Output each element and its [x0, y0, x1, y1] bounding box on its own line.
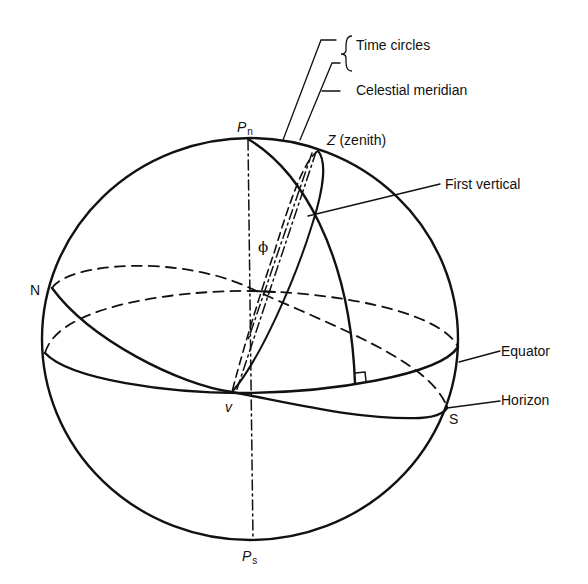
time-circles-brace — [341, 36, 352, 71]
equator-tick — [252, 291, 275, 292]
north-point-label: N — [30, 283, 40, 297]
horizon-label: Horizon — [501, 393, 549, 407]
first-vertical-front — [232, 151, 323, 392]
equator-label: Equator — [501, 344, 550, 358]
north-pole-label: Pn — [237, 120, 253, 137]
celestial-meridian-label: Celestial meridian — [356, 83, 467, 97]
north-pole-subscript: n — [247, 126, 253, 137]
time-circles-label: Time circles — [356, 38, 430, 52]
south-pole-letter: P — [242, 548, 251, 564]
vernal-point-label: v — [225, 400, 232, 414]
time-circles-leader-2 — [300, 63, 340, 140]
first-vertical-back — [232, 151, 318, 392]
latitude-phi-label: ϕ — [258, 240, 268, 255]
zenith-text: (zenith) — [339, 132, 386, 148]
right-angle-marker — [355, 372, 366, 381]
first-vertical-leader — [308, 184, 440, 216]
south-pole-subscript: s — [252, 555, 257, 566]
sphere-outline — [42, 138, 458, 540]
equator-leader — [459, 351, 500, 362]
zenith-letter: Z — [327, 132, 336, 148]
time-circles-leader-1 — [283, 40, 336, 140]
south-point-label: S — [449, 412, 458, 426]
zenith-label: Z (zenith) — [327, 133, 386, 147]
first-vertical-label: First vertical — [445, 177, 520, 191]
horizon-leader — [447, 401, 500, 408]
polar-axis — [248, 140, 253, 540]
south-pole-label: Ps — [242, 549, 257, 566]
celestial-sphere-drawing — [0, 0, 588, 584]
north-pole-letter: P — [237, 119, 246, 135]
